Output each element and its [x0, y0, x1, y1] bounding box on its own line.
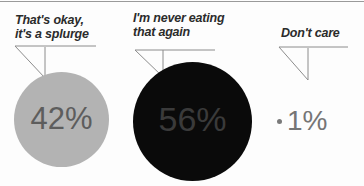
- bullet-dot-icon: [277, 119, 282, 124]
- bubble-value-dontcare: 1%: [287, 106, 327, 136]
- bubble-splurge: 42%: [14, 72, 109, 167]
- leader-pointer-splurge: [15, 46, 45, 78]
- callout-label-never: I'm never eating that again: [133, 11, 224, 39]
- infographic-chart: That's okay, it's a splurge I'm never ea…: [0, 0, 364, 186]
- leader-pointer-dontcare: [279, 47, 308, 80]
- bubble-value-never: 56%: [158, 100, 226, 139]
- callout-label-splurge: That's okay, it's a splurge: [15, 13, 89, 41]
- bubble-value-splurge: 42%: [30, 101, 92, 137]
- bubble-never: 56%: [133, 62, 252, 181]
- callout-label-dontcare: Don't care: [281, 26, 340, 40]
- top-divider-rule: [0, 1, 364, 2]
- bubble-dontcare: 1%: [277, 106, 327, 136]
